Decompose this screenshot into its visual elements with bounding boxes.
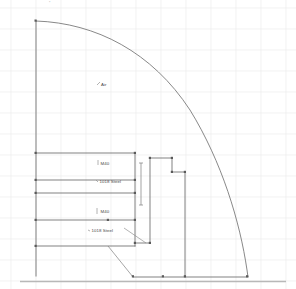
leader-lines: [88, 82, 146, 243]
inner-step-outline: [150, 158, 185, 243]
bottom-chamfer: [108, 246, 133, 277]
leader-air: [97, 82, 100, 85]
label-steel-lower: 1018 Steel: [92, 228, 114, 233]
top-edge-mark: *: [49, 1, 51, 5]
technical-drawing: Air M40 1018 Steel M40 1018 Steel *: [0, 0, 296, 289]
label-steel-upper: 1018 Steel: [100, 179, 122, 184]
vertical-dimension: [139, 163, 143, 205]
material-layer-lines: [36, 153, 135, 246]
label-m40-lower: M40: [101, 209, 110, 214]
drawing-canvas: Air M40 1018 Steel M40 1018 Steel *: [0, 0, 296, 289]
bottom-profile: [108, 246, 248, 277]
label-m40-upper: M40: [101, 161, 110, 166]
outer-boundary-curve: [36, 21, 248, 277]
leader-steel-lower: [88, 230, 90, 231]
label-air: Air: [101, 82, 107, 87]
